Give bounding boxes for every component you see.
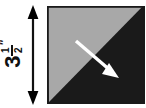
square-block xyxy=(47,6,145,104)
dimension-unit-symbol: ″ xyxy=(0,40,10,45)
arrowhead-down-icon xyxy=(28,91,39,105)
arrowhead-up-icon xyxy=(28,5,39,19)
dimension-arrow-graphic xyxy=(28,5,39,105)
dimension-fraction-numerator: 1 xyxy=(1,47,11,54)
dimension-fraction: 1 2 xyxy=(1,45,24,56)
dimension-whole-number: 3 xyxy=(2,56,24,68)
quilt-block-figure: 3 1 2 ″ xyxy=(0,0,146,108)
dimension-arrow xyxy=(22,3,44,107)
